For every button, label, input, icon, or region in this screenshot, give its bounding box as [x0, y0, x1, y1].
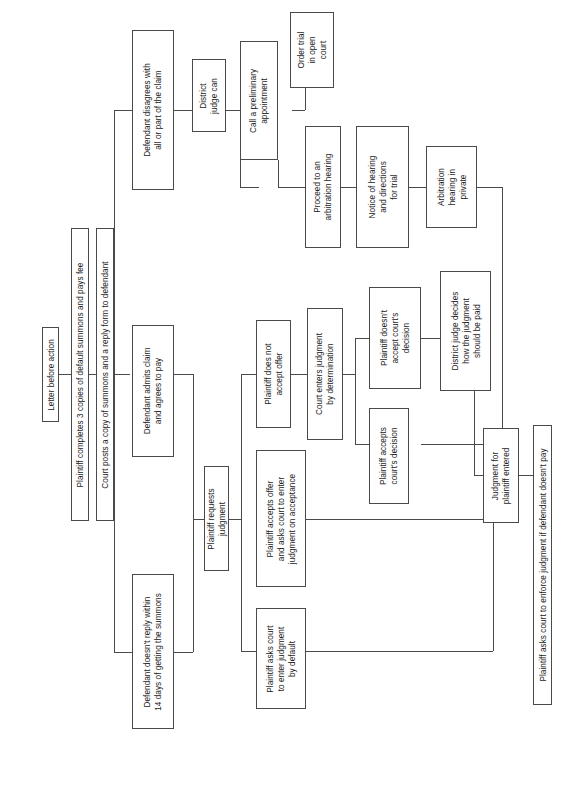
node-plaintiff-requests-judgment[interactable]: Plaintiff requests judgment [204, 466, 229, 571]
connector [292, 110, 305, 111]
node-label: Plaintiff asks court to enter judgment b… [265, 625, 298, 692]
connector [174, 110, 192, 111]
node-defendant-no-reply[interactable]: Defendant doesn't reply within 14 days o… [132, 574, 174, 729]
node-label: Defendant admits claim and agrees to pay [142, 348, 164, 435]
flowchart-canvas: Letter before action Plaintiff completes… [0, 0, 569, 799]
connector [493, 519, 494, 651]
connector [58, 374, 71, 375]
node-court-enters-judgment[interactable]: Court enters judgment by determination [307, 308, 343, 440]
node-label: Letter before action [45, 339, 56, 411]
node-court-posts[interactable]: Court posts a copy of summons and a repl… [96, 228, 114, 521]
connector [193, 519, 204, 520]
connector [291, 374, 307, 375]
connector [174, 374, 193, 375]
node-label: Plaintiff accepts offer and asks court t… [265, 473, 298, 563]
node-district-judge-can[interactable]: District judge can [192, 59, 226, 132]
node-plaintiff-asks-default[interactable]: Plaintiff asks court to enter judgment b… [256, 608, 306, 709]
node-label: Plaintiff requests judgment [206, 488, 228, 549]
connector [241, 651, 256, 652]
connector [278, 187, 305, 188]
connector [229, 519, 241, 520]
connector [114, 374, 130, 375]
connector [341, 187, 356, 188]
node-district-judge-decides[interactable]: District judge decides how the judgment … [440, 271, 491, 391]
node-proceed-to-arbitration-hearing[interactable]: Proceed to an arbitration hearing [305, 126, 341, 248]
connector [306, 651, 493, 652]
connector [355, 444, 369, 445]
node-label: Judgment for plaintiff entered [490, 447, 512, 504]
node-label: Plaintiff accepts court's decision [378, 427, 400, 485]
node-label: Court posts a copy of summons and a repl… [100, 261, 111, 488]
connector [474, 391, 475, 475]
connector [355, 338, 356, 444]
node-label: Proceed to an arbitration hearing [312, 154, 334, 221]
connector [278, 160, 279, 187]
node-plaintiff-does-not-accept-offer[interactable]: Plaintiff does not accept offer [256, 320, 291, 428]
node-order-trial-open-court[interactable]: Order trial in open court [290, 12, 334, 88]
node-label: Plaintiff does not accept offer [263, 343, 285, 404]
connector [174, 652, 193, 653]
node-label: Notice of hearing and directions for tri… [366, 156, 399, 219]
connector [477, 187, 502, 188]
connector [306, 519, 493, 520]
node-label: Plaintiff completes 3 copies of default … [75, 262, 86, 487]
node-plaintiff-accepts-offer[interactable]: Plaintiff accepts offer and asks court t… [256, 450, 306, 587]
connector [355, 338, 369, 339]
connector [193, 374, 194, 652]
node-label: Order trial in open court [296, 32, 329, 69]
node-label: District judge can [198, 78, 220, 114]
connector [114, 110, 115, 652]
node-defendant-admits[interactable]: Defendant admits claim and agrees to pay [132, 325, 174, 457]
node-call-preliminary-appointment[interactable]: Call a preliminary appointment [240, 41, 278, 160]
node-label: District judge decides how the judgment … [449, 292, 482, 371]
node-label: Defendant doesn't reply within 14 days o… [142, 593, 164, 711]
connector [241, 374, 242, 651]
node-notice-of-hearing[interactable]: Notice of hearing and directions for tri… [356, 126, 409, 248]
node-judgment-for-plaintiff-entered[interactable]: Judgment for plaintiff entered [483, 428, 519, 523]
node-label: Defendant disagrees with all or part of … [142, 63, 164, 157]
node-label: Arbitration hearing in private [435, 168, 468, 206]
connector [421, 338, 440, 339]
node-plaintiff-enforce-judgment[interactable]: Plaintiff asks court to enforce judgment… [533, 425, 552, 705]
connector [114, 652, 132, 653]
connector [409, 187, 426, 188]
node-plaintiff-accepts-decision[interactable]: Plaintiff accepts court's decision [369, 408, 409, 504]
node-arbitration-hearing-private[interactable]: Arbitration hearing in private [426, 146, 477, 228]
connector [343, 374, 355, 375]
node-defendant-disagrees[interactable]: Defendant disagrees with all or part of … [132, 30, 174, 190]
node-label: Court enters judgment by determination [314, 333, 336, 415]
connector [114, 110, 132, 111]
node-label: Plaintiff doesn't accept court's decisio… [379, 310, 412, 366]
node-label: Call a preliminary appointment [248, 68, 270, 132]
node-plaintiff-doesnt-accept-decision[interactable]: Plaintiff doesn't accept court's decisio… [369, 287, 421, 389]
connector [305, 88, 306, 110]
node-letter-before-action[interactable]: Letter before action [42, 327, 59, 422]
node-plaintiff-completes[interactable]: Plaintiff completes 3 copies of default … [71, 228, 89, 521]
connector [240, 187, 259, 188]
connector [241, 374, 256, 375]
node-label: Plaintiff asks court to enforce judgment… [537, 448, 548, 681]
connector [226, 110, 240, 111]
connector [519, 475, 533, 476]
